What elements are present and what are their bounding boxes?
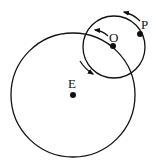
- epicycle-rotation-arrow: [95, 30, 108, 36]
- planet-rotation-arrow: [124, 12, 140, 21]
- label-epicycle-center: O: [109, 30, 118, 45]
- label-planet: P: [141, 17, 148, 32]
- label-earth: E: [68, 76, 76, 91]
- earth-point: [70, 92, 76, 98]
- epicycle-diagram: E O P: [0, 0, 158, 167]
